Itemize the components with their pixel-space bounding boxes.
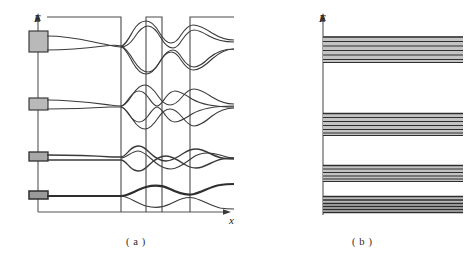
level-4-curves [47,26,234,72]
position-axis-a [38,209,231,214]
axis-band-4 [29,31,48,52]
level-3-inner-curves [121,91,234,122]
level-1-inner-curves [121,196,234,209]
level-1-curves [47,184,234,196]
panel-a-sublabel: ( a ) [126,236,146,247]
energy-band-2 [323,165,463,182]
energy-band-3 [323,113,463,136]
panel-b-energy-axis-label: E [319,13,326,24]
figure-root: E x [0,0,473,267]
axis-band-1 [29,191,48,199]
panel-a-position-axis-label: x [229,215,234,226]
potential-profile [47,17,234,212]
panel-a-energy-axis-label: E [34,13,41,24]
energy-band-1 [323,196,463,213]
panel-b-plot [255,0,473,232]
axis-band-3 [29,98,48,110]
level-2-curves [47,146,234,171]
panel-b: E [255,0,473,232]
panel-a: E x [0,0,250,232]
axis-band-2 [29,152,48,161]
panel-a-plot [0,0,250,232]
panel-b-sublabel: ( b ) [352,236,373,247]
energy-band-4 [323,36,463,63]
